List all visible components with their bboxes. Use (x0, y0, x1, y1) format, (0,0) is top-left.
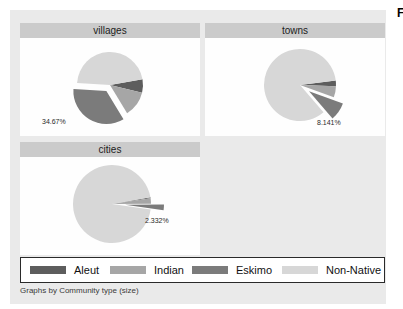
legend-label-indian: Indian (154, 264, 184, 276)
panel-cities: cities 2.332% (20, 142, 200, 255)
legend-swatch-eskimo (192, 266, 228, 274)
slice-label-cities: 2.332% (145, 217, 169, 224)
legend-swatch-indian (110, 266, 146, 274)
pie-chart-cities (20, 157, 200, 255)
slice-label-villages: 34.67% (42, 118, 66, 125)
pie-slice-non-native (73, 165, 151, 243)
panel-towns: towns 8.141% (205, 23, 385, 136)
pie-slice-non-native (77, 52, 142, 85)
page: villages 34.67% towns 8.141% cities 2.33… (0, 0, 403, 309)
legend-label-non-native: Non-Native (326, 264, 381, 276)
legend: Aleut Indian Eskimo Non-Native (20, 257, 385, 283)
legend-item-eskimo: Eskimo (192, 258, 272, 282)
graphs-by-caption: Graphs by Community type (size) (20, 286, 139, 295)
legend-item-non-native: Non-Native (282, 258, 381, 282)
panel-title-villages: villages (20, 23, 200, 38)
stata-pie-figure: villages 34.67% towns 8.141% cities 2.33… (10, 10, 386, 304)
legend-swatch-non-native (282, 266, 318, 274)
slice-label-towns: 8.141% (317, 119, 341, 126)
legend-label-aleut: Aleut (74, 264, 99, 276)
panel-villages: villages 34.67% (20, 23, 200, 136)
cropped-text-fragment: F (397, 6, 403, 20)
pie-chart-towns (205, 38, 385, 136)
plot-cities: 2.332% (20, 157, 200, 255)
legend-item-aleut: Aleut (30, 258, 99, 282)
plot-towns: 8.141% (205, 38, 385, 136)
legend-item-indian: Indian (110, 258, 184, 282)
legend-swatch-aleut (30, 266, 66, 274)
panel-title-cities: cities (20, 142, 200, 157)
plot-villages: 34.67% (20, 38, 200, 136)
legend-label-eskimo: Eskimo (236, 264, 272, 276)
panel-title-towns: towns (205, 23, 385, 38)
